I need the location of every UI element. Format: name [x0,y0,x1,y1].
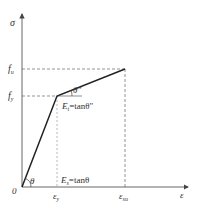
esu-label: εsu [119,191,128,202]
es-label: Es=tanθ [60,175,89,186]
stress-strain-diagram: σ ε 0 fu fy εy εsu θ θ" Et=tanθ" Es=tanθ [0,0,197,212]
fu-label: fu [8,63,14,75]
et-label: Et=tanθ" [61,101,94,112]
epsilon-label: ε [180,190,184,200]
theta2-label: θ" [73,85,81,95]
fy-label: fy [8,90,14,102]
sigma-label: σ [10,17,16,28]
ey-label: εy [53,191,60,202]
theta-label: θ [30,176,35,186]
theta2-arc [71,90,72,96]
origin-label: 0 [12,186,17,196]
